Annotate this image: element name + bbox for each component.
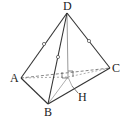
label-H: H xyxy=(78,90,87,104)
label-B: B xyxy=(44,105,52,118)
edge-AC-dashed xyxy=(21,68,110,78)
label-A: A xyxy=(10,71,19,85)
equal-mark-DA-icon xyxy=(42,42,45,45)
label-C: C xyxy=(112,61,120,75)
segment-OH xyxy=(68,77,72,86)
equal-mark-DC-icon xyxy=(87,39,90,42)
label-D: D xyxy=(63,0,72,13)
altitude-DO xyxy=(67,13,68,77)
segment-OC-dashed xyxy=(68,68,110,77)
equal-mark-DB-icon xyxy=(56,55,59,58)
edge-AB xyxy=(21,78,48,104)
tetrahedron-diagram: D A B C H xyxy=(0,0,127,118)
